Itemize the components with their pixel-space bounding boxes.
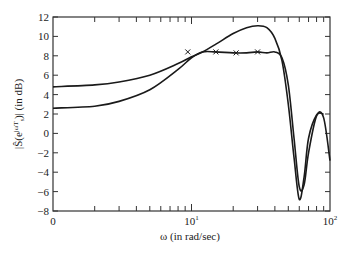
series-line-2	[53, 51, 330, 191]
y-label-tail: )| (in dB)	[12, 79, 25, 119]
y-axis-label: |Ŝ(ejωTs)| (in dB)	[12, 79, 25, 149]
svg-text:|Ŝ(ejωTs)| (in dB): |Ŝ(ejωTs)| (in dB)	[12, 79, 25, 149]
frequency-response-chart: −8−6−4−2024681012 0101102 ω (in rad/sec)…	[0, 0, 349, 254]
x-axis-label: ω (in rad/sec)	[160, 230, 220, 243]
x-tick-label: 101	[184, 214, 199, 227]
y-tick-label: 12	[38, 11, 49, 23]
y-tick-label: 2	[44, 108, 50, 120]
y-label-main: |Ŝ(e	[12, 132, 25, 149]
x-tick-label: 102	[323, 214, 338, 227]
y-tick-label: −8	[37, 205, 49, 217]
data-curves	[53, 26, 330, 200]
x-marker	[185, 49, 190, 54]
y-tick-label: −4	[37, 166, 49, 178]
y-tick-label: 6	[44, 69, 50, 81]
y-tick-label: −2	[37, 147, 49, 159]
y-tick-label: 8	[44, 50, 50, 62]
y-tick-label: −6	[37, 186, 49, 198]
y-label-sup: jωT	[12, 121, 20, 134]
x-axis-ticks: 0101102	[50, 17, 338, 227]
plot-frame	[53, 17, 330, 211]
y-tick-label: 4	[44, 89, 50, 101]
y-axis-ticks: −8−6−4−2024681012	[37, 11, 330, 217]
y-tick-label: 10	[38, 30, 50, 42]
plot-border	[53, 17, 330, 211]
y-tick-label: 0	[44, 127, 50, 139]
x-tick-label: 0	[50, 215, 56, 227]
